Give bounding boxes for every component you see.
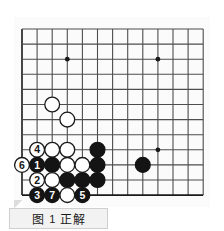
star-point: [156, 147, 161, 152]
page-corner-fold-decoration: [14, 200, 23, 208]
caption-number: 1: [49, 213, 55, 225]
move-number-label: 3: [34, 189, 40, 201]
white-stone[interactable]: [60, 158, 75, 173]
move-number-label: 2: [34, 174, 40, 186]
go-board[interactable]: 4612375: [14, 17, 210, 207]
black-stone[interactable]: [135, 158, 150, 173]
figure-caption: 图 1 正解: [9, 208, 108, 229]
move-number-label: 4: [34, 143, 40, 155]
white-stone[interactable]: [45, 97, 60, 112]
black-stone[interactable]: [90, 173, 105, 188]
black-stone[interactable]: [45, 158, 60, 173]
move-number-label: 1: [34, 159, 40, 171]
go-board-canvas[interactable]: 4612375: [14, 17, 210, 207]
star-point: [156, 57, 161, 62]
move-number-label: 7: [49, 189, 55, 201]
black-stone[interactable]: [60, 173, 75, 188]
white-stone[interactable]: [60, 142, 75, 157]
caption-title: 正解: [60, 210, 85, 227]
white-stone[interactable]: [75, 158, 90, 173]
move-number-label: 5: [79, 189, 85, 201]
white-stone[interactable]: [45, 142, 60, 157]
black-stone[interactable]: [90, 142, 105, 157]
black-stone[interactable]: [75, 173, 90, 188]
black-stone[interactable]: [90, 158, 105, 173]
white-stone[interactable]: [60, 188, 75, 203]
white-stone[interactable]: [45, 173, 60, 188]
white-stone[interactable]: [60, 112, 75, 127]
star-point: [65, 57, 70, 62]
move-number-label: 6: [19, 159, 25, 171]
go-diagram-figure: 4612375 图 1 正解: [0, 0, 224, 231]
caption-label: 图: [32, 210, 45, 227]
